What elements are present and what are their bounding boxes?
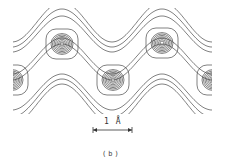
- density-peak-bottom-right-partial: [197, 65, 225, 95]
- contour-lines: [0, 2, 225, 124]
- density-peak-top-right: [146, 28, 178, 58]
- scale-bar-label: 1 Å: [104, 117, 121, 126]
- contour-map: [0, 0, 225, 165]
- figure-caption: (b): [102, 150, 121, 158]
- scale-bar: [93, 127, 132, 133]
